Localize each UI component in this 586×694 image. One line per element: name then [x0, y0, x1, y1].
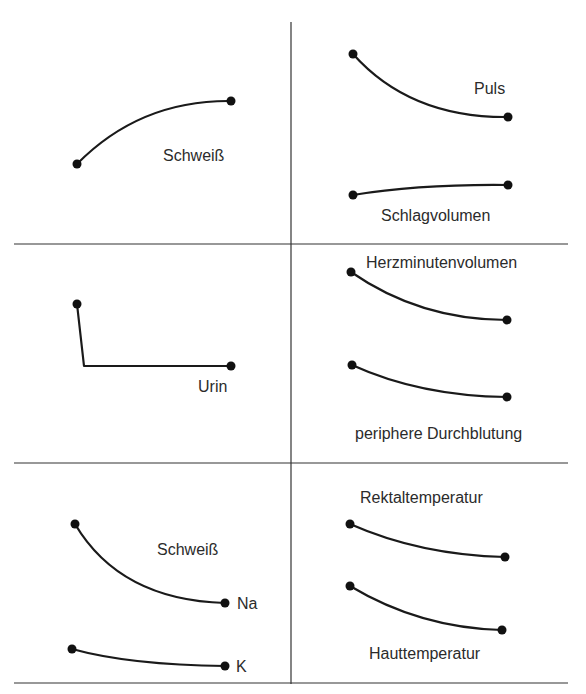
panel-middle-left: Urin: [73, 300, 236, 396]
endpoint-dot: [68, 645, 77, 654]
endpoint-dot: [221, 662, 230, 671]
endpoint-dot: [501, 553, 510, 562]
endpoint-dot: [71, 520, 80, 529]
endpoint-dot: [73, 160, 82, 169]
endpoint-dot: [503, 316, 512, 325]
sweat-potassium-curve: [72, 649, 225, 666]
endpoint-dot: [346, 520, 355, 529]
curve-label: Puls: [474, 80, 505, 97]
sweat-sodium-curve: [75, 524, 225, 603]
panel-bottom-left: SchweißNaK: [68, 520, 258, 676]
urine-curve: [77, 304, 231, 366]
curve-label: Schweiß: [163, 147, 225, 164]
endpoint-dot: [498, 626, 507, 635]
cardiac-output-curve: [351, 272, 507, 320]
curve-label: K: [236, 658, 247, 675]
curve-label: periphere Durchblutung: [355, 425, 522, 442]
endpoint-dot: [73, 300, 82, 309]
panel-top-right: PulsSchlagvolumen: [349, 50, 513, 225]
grid-lines: [14, 22, 568, 684]
endpoint-dot: [221, 599, 230, 608]
curve-label: Hauttemperatur: [369, 645, 481, 662]
curve-label: Rektaltemperatur: [360, 489, 483, 506]
rectal-temperature-curve: [350, 524, 505, 557]
endpoint-dot: [504, 181, 513, 190]
endpoint-dot: [349, 191, 358, 200]
endpoint-dot: [227, 362, 236, 371]
panels: SchweißPulsSchlagvolumenUrinHerzminutenv…: [68, 50, 523, 676]
endpoint-dot: [348, 361, 357, 370]
endpoint-dot: [346, 582, 355, 591]
curve-label: Schweiß: [157, 541, 219, 558]
panel-top-left: Schweiß: [73, 97, 236, 169]
curve-label: Schlagvolumen: [381, 207, 490, 224]
endpoint-dot: [504, 113, 513, 122]
endpoint-dot: [503, 393, 512, 402]
skin-temperature-curve: [350, 586, 502, 630]
curve-label: Na: [237, 595, 258, 612]
curve-label: Herzminutenvolumen: [366, 254, 517, 271]
curve-label: Urin: [198, 378, 227, 395]
peripheral-blood-flow-curve: [352, 365, 507, 397]
endpoint-dot: [227, 97, 236, 106]
panel-middle-right: Herzminutenvolumenperiphere Durchblutung: [347, 254, 523, 442]
panel-bottom-right: RektaltemperaturHauttemperatur: [346, 489, 510, 662]
physiology-diagram: SchweißPulsSchlagvolumenUrinHerzminutenv…: [0, 0, 586, 694]
endpoint-dot: [349, 50, 358, 59]
stroke-volume-curve: [353, 185, 508, 195]
endpoint-dot: [347, 268, 356, 277]
